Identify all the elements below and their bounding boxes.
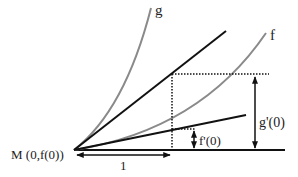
curve-f-label: f <box>270 27 275 43</box>
curve-g <box>74 8 151 150</box>
slope-f-label: f'(0) <box>199 133 221 148</box>
slope-g-label: g'(0) <box>259 115 285 131</box>
curve-f <box>74 33 266 150</box>
origin-label: M (0,f(0)) <box>11 147 64 162</box>
unit-label: 1 <box>120 158 127 173</box>
curve-g-label: g <box>155 2 163 18</box>
tangent-diagram: g f g'(0) f'(0) M (0,f(0)) 1 <box>0 0 298 177</box>
